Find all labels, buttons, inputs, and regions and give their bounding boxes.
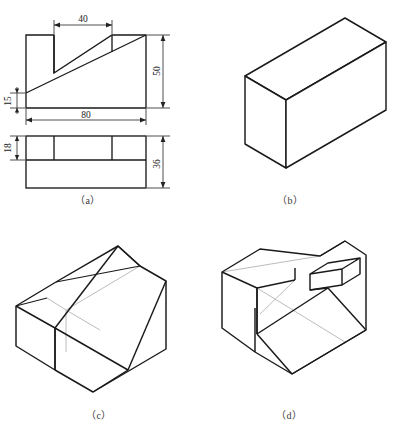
dimension-40-label: 40 [78, 14, 88, 24]
top-view-outline [26, 136, 146, 188]
caption-c: （c） [86, 407, 112, 422]
choice-d-rear-top-edge [320, 241, 345, 256]
arrow-18-bottom [15, 155, 19, 160]
arrow-50-top [161, 35, 166, 41]
choice-c-solid [16, 246, 166, 392]
choice-d-right-block-top [310, 258, 360, 274]
choice-d-hidden-slot-line [260, 280, 295, 314]
choice-d-hidden-slope-diag [257, 288, 345, 342]
caption-b: （b） [277, 192, 304, 207]
choice-d-left-rib-edges [222, 272, 257, 334]
top-view [26, 136, 146, 188]
choice-d-slot-floor-front [257, 334, 292, 374]
front-view [26, 35, 146, 108]
arrow-18-top [15, 136, 19, 141]
choice-d-right-block-side [342, 258, 360, 285]
arrow-40-left [54, 23, 60, 28]
isometric-choice-c [0, 222, 200, 417]
choice-d-hidden-top-ridge [222, 256, 320, 272]
arrow-50-bottom [161, 102, 166, 108]
choice-d-slot-floor-right [292, 330, 366, 374]
front-view-outline [26, 35, 146, 108]
isometric-choice-d [200, 222, 403, 417]
dimension-15-label: 15 [3, 96, 13, 106]
caption-a: （a） [75, 192, 101, 207]
arrow-15-top [15, 89, 19, 94]
dimension-50-label: 50 [152, 66, 162, 76]
arrow-40-right [106, 23, 112, 28]
arrow-15-bottom [15, 108, 19, 113]
choice-d-slope-right-edge [328, 288, 366, 330]
arrow-80-right [140, 118, 146, 123]
orthographic-views-group: 40 50 15 80 [0, 8, 200, 198]
arrow-80-left [26, 118, 32, 123]
dimension-80-label: 80 [81, 110, 91, 120]
dimension-18-label: 18 [3, 143, 13, 153]
isometric-choice-b [200, 8, 403, 198]
dimension-36-label: 36 [152, 159, 162, 169]
arrow-36-top [161, 136, 166, 142]
choice-d-left-rib-top [257, 280, 295, 288]
choice-d-solid [222, 241, 366, 374]
front-view-slope-line [26, 35, 146, 93]
choice-d-hidden-lines [222, 256, 345, 342]
figure-root: 40 50 15 80 [0, 0, 403, 435]
arrow-36-bottom [161, 182, 166, 188]
caption-d: （d） [276, 407, 303, 422]
